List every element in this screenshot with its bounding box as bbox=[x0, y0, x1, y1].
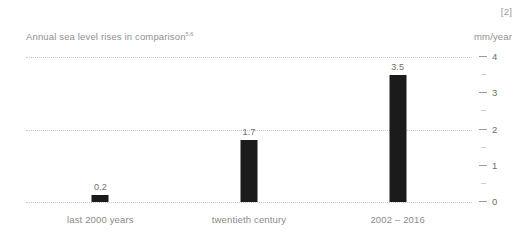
category-label: last 2000 years bbox=[67, 214, 134, 225]
y-axis-tick-label: 1 bbox=[492, 160, 497, 172]
bar-value-label: 3.5 bbox=[391, 62, 404, 72]
bar-value-label: 0.2 bbox=[94, 182, 107, 192]
tick-dash-icon bbox=[479, 56, 487, 57]
y-axis-unit-label: mm/year bbox=[474, 31, 512, 42]
gridline-0 bbox=[26, 202, 472, 203]
y-axis-tick-label: 0 bbox=[492, 196, 497, 208]
tick-dash-icon bbox=[481, 147, 486, 148]
y-axis-tick-label: 2 bbox=[492, 124, 497, 136]
tick-dash-icon bbox=[479, 129, 487, 130]
bar bbox=[389, 75, 406, 202]
gridline-4 bbox=[26, 57, 472, 58]
chart-title: Annual sea level rises in comparison5,6 bbox=[26, 31, 193, 42]
y-axis-tick-label: 3 bbox=[492, 87, 497, 99]
bar-value-label: 1.7 bbox=[243, 127, 256, 137]
bar bbox=[241, 140, 258, 202]
plot-area: 0.21.73.5 bbox=[26, 57, 472, 202]
tick-dash-icon bbox=[479, 201, 487, 202]
y-axis-tick-label: 4 bbox=[492, 51, 497, 63]
chart-title-text: Annual sea level rises in comparison bbox=[26, 31, 186, 42]
category-label: 2002 – 2016 bbox=[370, 214, 424, 225]
tick-dash-icon bbox=[479, 92, 487, 93]
x-axis-category-labels: last 2000 yearstwentieth century2002 – 2… bbox=[26, 214, 472, 230]
tick-dash-icon bbox=[481, 183, 486, 184]
tick-dash-icon bbox=[479, 165, 487, 166]
tick-dash-icon bbox=[481, 74, 486, 75]
bar bbox=[92, 195, 109, 202]
chart-title-footnote-superscript: 5,6 bbox=[186, 31, 194, 37]
tick-dash-icon bbox=[481, 110, 486, 111]
y-axis: 01234 bbox=[472, 57, 526, 202]
category-label: twentieth century bbox=[212, 214, 286, 225]
figure-reference: [2] bbox=[501, 6, 512, 17]
